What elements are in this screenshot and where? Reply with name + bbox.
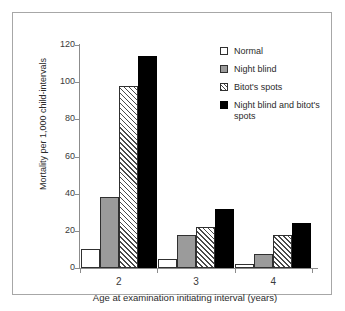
bar	[292, 223, 311, 268]
legend-item: Night blind and bitot's spots	[220, 100, 320, 122]
y-axis-tick-label: 80	[43, 114, 75, 123]
bar	[119, 86, 138, 268]
x-axis-title: Age at examination initiating interval (…	[25, 292, 345, 303]
y-axis-tick-label-text: 120	[49, 40, 75, 49]
bar	[177, 235, 196, 268]
x-axis-tick-label: 4	[253, 276, 293, 287]
bar	[215, 209, 234, 268]
bar	[81, 249, 100, 268]
bar	[235, 264, 254, 268]
legend-label: Night blind and bitot's spots	[234, 100, 320, 122]
legend-swatch-normal-icon	[220, 47, 228, 55]
y-axis-tick-label: 100	[43, 77, 75, 86]
chart-legend: Normal Night blind Bitot's spots Night b…	[220, 46, 320, 129]
x-axis-tick-label: 3	[176, 276, 216, 287]
y-axis-tick-label: 120	[43, 40, 75, 49]
legend-swatch-night-blind-and-bitots-spots-icon	[220, 101, 228, 109]
y-axis-tick-label-text: 40	[49, 189, 75, 198]
legend-label: Night blind	[234, 64, 277, 75]
legend-item: Night blind	[220, 64, 320, 75]
y-axis-tick-label-text: 20	[49, 226, 75, 235]
y-axis-tick-label-text: 100	[49, 77, 75, 86]
x-axis-tick-label: 2	[99, 276, 139, 287]
y-axis-tick-label: 20	[43, 226, 75, 235]
bar	[254, 254, 273, 268]
legend-item: Bitot's spots	[220, 82, 320, 93]
y-axis-tick-label-text: 80	[49, 114, 75, 123]
x-axis-tick	[80, 268, 81, 273]
bar	[100, 197, 119, 268]
legend-swatch-night-blind-icon	[220, 65, 228, 73]
y-axis-tick-label-text: 0	[49, 263, 75, 272]
y-axis-tick-label-text: 60	[49, 152, 75, 161]
legend-label: Normal	[234, 46, 263, 57]
y-axis-tick-label: 60	[43, 152, 75, 161]
x-axis-tick	[157, 268, 158, 273]
x-axis-tick	[312, 268, 313, 273]
bar	[196, 227, 215, 268]
chart-frame: Mortality per 1,000 child-intervals Age …	[12, 12, 332, 295]
bar	[138, 56, 157, 268]
legend-label: Bitot's spots	[234, 82, 282, 93]
legend-swatch-bitots-spots-icon	[220, 83, 228, 91]
y-axis-tick-label: 40	[43, 189, 75, 198]
figure: Mortality per 1,000 child-intervals Age …	[0, 0, 345, 311]
x-axis-line	[79, 268, 318, 269]
legend-item: Normal	[220, 46, 320, 57]
bar	[158, 259, 177, 268]
x-axis-tick	[235, 268, 236, 273]
bar	[273, 235, 292, 268]
y-axis-tick-label: 0	[43, 263, 75, 272]
